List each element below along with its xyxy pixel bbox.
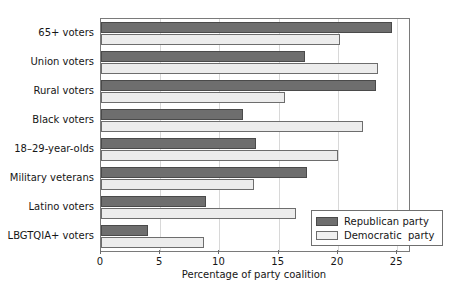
bar-republican	[101, 167, 307, 178]
bar-democratic	[101, 208, 296, 219]
bar-republican	[101, 196, 206, 207]
bar-democratic	[101, 150, 338, 161]
bar-democratic	[101, 121, 363, 132]
bar-republican	[101, 225, 148, 236]
legend-label-republican: Republican party	[344, 216, 429, 227]
x-tick-mark	[159, 250, 160, 254]
x-tick-label: 25	[381, 256, 411, 268]
bar-democratic	[101, 92, 285, 103]
bar-republican	[101, 80, 376, 91]
x-tick-label: 20	[322, 256, 352, 268]
bar-democratic	[101, 179, 254, 190]
y-axis-label: Latino voters	[0, 201, 94, 212]
y-axis-label: Black voters	[0, 114, 94, 125]
x-tick-label: 0	[85, 256, 115, 268]
legend-item-republican: Republican party	[316, 214, 438, 228]
x-tick-mark	[396, 250, 397, 254]
light-gray-swatch-icon	[316, 231, 338, 240]
x-axis-title: Percentage of party coalition	[100, 269, 408, 281]
x-tick-label: 5	[144, 256, 174, 268]
bar-republican	[101, 138, 256, 149]
legend: Republican party Democratic party	[311, 210, 443, 246]
legend-item-democratic: Democratic party	[316, 228, 438, 242]
bar-chart: 65+ votersUnion votersRural votersBlack …	[0, 0, 449, 284]
bar-republican	[101, 109, 243, 120]
y-axis-label: 18–29-year-olds	[0, 143, 94, 154]
bar-group	[101, 19, 409, 48]
y-axis-label: 65+ voters	[0, 27, 94, 38]
bar-group	[101, 164, 409, 193]
y-axis-label: Union voters	[0, 56, 94, 67]
dark-gray-swatch-icon	[316, 217, 338, 226]
bar-democratic	[101, 34, 340, 45]
y-axis-label: Rural voters	[0, 85, 94, 96]
bar-group	[101, 48, 409, 77]
x-tick-mark	[337, 250, 338, 254]
bar-republican	[101, 51, 305, 62]
bar-group	[101, 77, 409, 106]
bar-democratic	[101, 237, 204, 248]
bar-group	[101, 106, 409, 135]
bar-democratic	[101, 63, 378, 74]
x-tick-mark	[218, 250, 219, 254]
legend-label-democratic: Democratic party	[344, 230, 434, 241]
x-tick-mark	[278, 250, 279, 254]
bar-republican	[101, 22, 392, 33]
y-axis-label: LBGTQIA+ voters	[0, 230, 94, 241]
x-tick-label: 15	[263, 256, 293, 268]
x-tick-label: 10	[203, 256, 233, 268]
bar-group	[101, 135, 409, 164]
y-axis-label: Military veterans	[0, 172, 94, 183]
x-tick-mark	[100, 250, 101, 254]
